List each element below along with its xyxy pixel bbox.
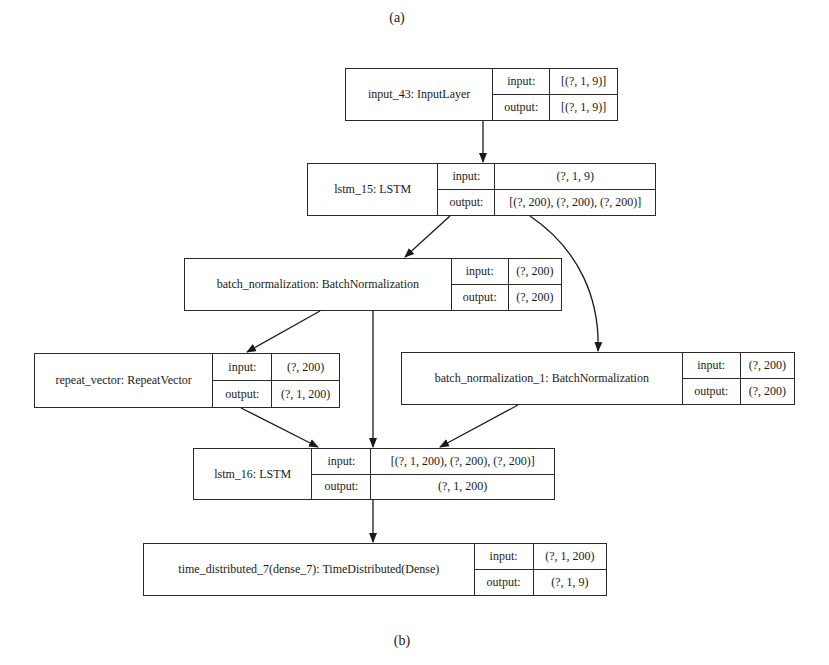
port-label-output: output: <box>438 190 495 215</box>
port-value-input: (?, 1, 200) <box>534 544 606 569</box>
port-value-input: (?, 200) <box>272 354 339 380</box>
port-label-input: input: <box>213 354 272 380</box>
port-label-output: output: <box>312 475 371 500</box>
edge-bn-to-repeat <box>247 311 320 352</box>
node-name: lstm_16: LSTM <box>194 449 312 499</box>
node-input-43: input_43: InputLayer input:[(?, 1, 9)] o… <box>345 68 618 121</box>
port-value-output: [(?, 1, 9)] <box>550 95 617 120</box>
port-label-input: input: <box>475 544 534 569</box>
node-name: batch_normalization_1: BatchNormalizatio… <box>402 353 683 404</box>
node-lstm-15: lstm_15: LSTM input:(?, 1, 9) output:[(?… <box>307 163 656 216</box>
node-repeat-vector: repeat_vector: RepeatVector input:(?, 20… <box>34 353 340 408</box>
edge-repeat-to-lstm16 <box>241 408 318 447</box>
port-value-input: (?, 200) <box>509 259 561 284</box>
node-name: batch_normalization: BatchNormalization <box>185 259 452 310</box>
port-value-output: (?, 1, 200) <box>272 381 339 407</box>
node-time-distributed-7: time_distributed_7(dense_7): TimeDistrib… <box>143 543 607 596</box>
node-batch-normalization: batch_normalization: BatchNormalization … <box>184 258 562 311</box>
edge-lstm15-to-bn <box>405 216 450 257</box>
port-value-output: (?, 200) <box>741 379 794 404</box>
port-label-input: input: <box>683 353 741 378</box>
node-name: input_43: InputLayer <box>346 69 493 120</box>
port-value-output: (?, 1, 9) <box>534 570 606 595</box>
port-value-output: (?, 1, 200) <box>371 475 554 500</box>
port-value-input: (?, 1, 9) <box>495 164 655 189</box>
edge-bn1-to-lstm16 <box>440 405 518 447</box>
node-name: lstm_15: LSTM <box>308 164 438 215</box>
port-label-output: output: <box>213 381 272 407</box>
node-lstm-16: lstm_16: LSTM input:[(?, 1, 200), (?, 20… <box>193 448 555 500</box>
node-name: repeat_vector: RepeatVector <box>35 354 213 407</box>
node-batch-normalization-1: batch_normalization_1: BatchNormalizatio… <box>401 352 795 405</box>
port-value-input: [(?, 1, 9)] <box>550 69 617 94</box>
node-name: time_distributed_7(dense_7): TimeDistrib… <box>144 544 475 595</box>
port-label-input: input: <box>312 449 371 474</box>
port-label-output: output: <box>493 95 550 120</box>
port-value-input: (?, 200) <box>741 353 794 378</box>
port-label-input: input: <box>493 69 550 94</box>
port-label-input: input: <box>452 259 509 284</box>
port-value-output: (?, 200) <box>509 285 561 310</box>
port-label-output: output: <box>475 570 534 595</box>
port-value-input: [(?, 1, 200), (?, 200), (?, 200)] <box>371 449 554 474</box>
port-label-output: output: <box>683 379 741 404</box>
port-value-output: [(?, 200), (?, 200), (?, 200)] <box>495 190 655 215</box>
port-label-input: input: <box>438 164 495 189</box>
port-label-output: output: <box>452 285 509 310</box>
